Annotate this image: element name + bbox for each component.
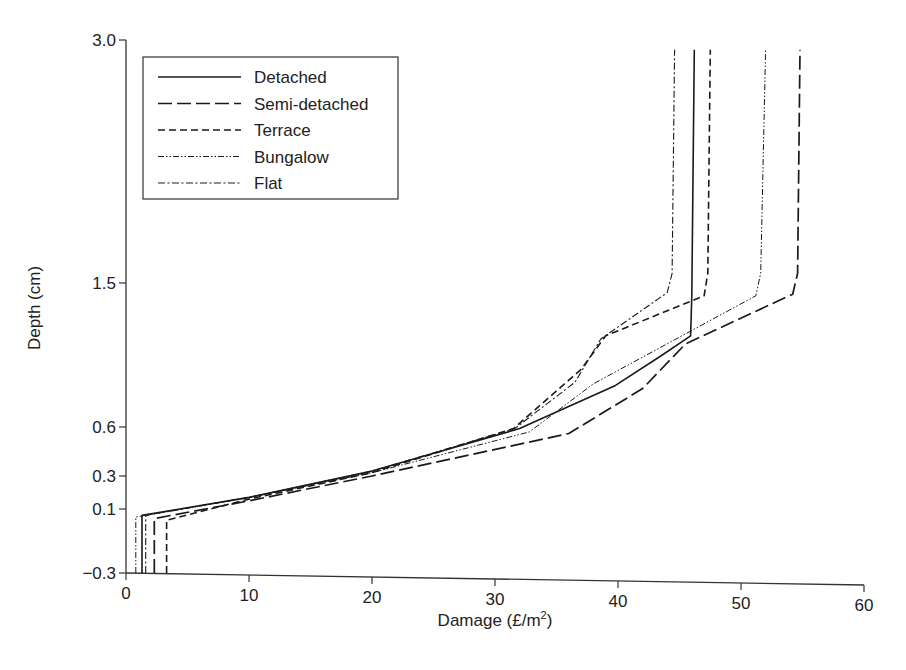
x-tick-label: 60 [855, 596, 874, 615]
y-ticks: −0.30.10.30.61.53.0 [82, 31, 126, 583]
y-tick-label: −0.3 [82, 564, 116, 583]
y-axis-title: Depth (cm) [25, 266, 44, 350]
legend-label: Terrace [254, 121, 311, 140]
y-tick-label: 0.6 [92, 418, 116, 437]
y-tick-label: 1.5 [92, 274, 116, 293]
legend-label: Semi-detached [254, 95, 368, 114]
legend-label: Detached [254, 68, 327, 87]
x-tick-label: 20 [363, 588, 382, 607]
x-tick-label: 30 [486, 590, 505, 609]
legend: DetachedSemi-detachedTerraceBungalowFlat [143, 57, 398, 199]
legend-label: Flat [254, 174, 283, 193]
y-tick-label: 0.3 [92, 467, 116, 486]
damage-depth-chart: −0.30.10.30.61.53.0 0102030405060 Depth … [0, 0, 906, 670]
x-tick-label: 0 [121, 584, 130, 603]
x-tick-label: 50 [732, 594, 751, 613]
y-tick-label: 0.1 [92, 500, 116, 519]
x-axis-title: Damage (£/m2) [438, 609, 553, 630]
x-tick-label: 10 [240, 586, 259, 605]
y-tick-label: 3.0 [92, 31, 116, 50]
x-tick-label: 40 [609, 592, 628, 611]
legend-label: Bungalow [254, 148, 329, 167]
